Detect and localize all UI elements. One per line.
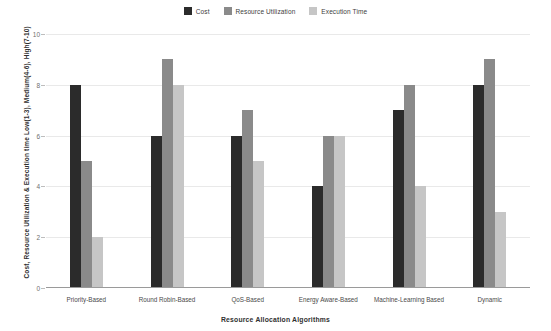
bar-resource-utilization[interactable] <box>81 161 92 288</box>
bar-group: Energy Aware-Based <box>288 34 369 288</box>
x-tick-label: QoS-Based <box>231 296 264 303</box>
x-tick-label: Energy Aware-Based <box>299 296 358 303</box>
y-tick-mark <box>41 85 45 86</box>
x-tick-label: Priority-Based <box>67 296 107 303</box>
bar-groups: Priority-BasedRound Robin-BasedQoS-Based… <box>46 34 530 288</box>
bar-execution-time[interactable] <box>253 161 264 288</box>
bar-cost[interactable] <box>70 85 81 288</box>
legend-swatch-icon <box>224 7 232 15</box>
y-tick-mark <box>41 186 45 187</box>
legend-item-cost[interactable]: Cost <box>184 7 210 15</box>
bar-execution-time[interactable] <box>173 85 184 288</box>
bar-group: Round Robin-Based <box>127 34 208 288</box>
bar-execution-time[interactable] <box>415 186 426 288</box>
bar-resource-utilization[interactable] <box>484 59 495 288</box>
bar-cost[interactable] <box>231 136 242 288</box>
legend-label: Cost <box>196 8 210 15</box>
bar-resource-utilization[interactable] <box>323 136 334 288</box>
bar-resource-utilization[interactable] <box>162 59 173 288</box>
legend-label: Execution Time <box>321 8 367 15</box>
y-tick-mark <box>41 288 45 289</box>
bar-resource-utilization[interactable] <box>404 85 415 288</box>
x-tick-label: Machine-Learning Based <box>374 296 444 303</box>
y-tick-label: 8 <box>20 81 40 88</box>
bar-group: Dynamic <box>449 34 530 288</box>
y-tick-label: 0 <box>20 285 40 292</box>
plot-area: 0246810 Priority-BasedRound Robin-BasedQ… <box>46 34 530 288</box>
bar-cost[interactable] <box>393 110 404 288</box>
legend-label: Resource Utilization <box>236 8 296 15</box>
legend-item-execution-time[interactable]: Execution Time <box>309 7 367 15</box>
bar-chart: CostResource UtilizationExecution Time C… <box>0 0 551 331</box>
y-tick-label: 4 <box>20 183 40 190</box>
x-axis-title: Resource Allocation Algorithms <box>0 316 551 323</box>
bar-group: QoS-Based <box>207 34 288 288</box>
bar-execution-time[interactable] <box>92 237 103 288</box>
legend-item-resource-utilization[interactable]: Resource Utilization <box>224 7 296 15</box>
bar-cost[interactable] <box>312 186 323 288</box>
y-tick-mark <box>41 136 45 137</box>
bar-execution-time[interactable] <box>334 136 345 288</box>
x-tick-label: Dynamic <box>477 296 502 303</box>
bar-cost[interactable] <box>151 136 162 288</box>
bar-group: Machine-Learning Based <box>369 34 450 288</box>
bar-resource-utilization[interactable] <box>242 110 253 288</box>
bar-execution-time[interactable] <box>495 212 506 288</box>
legend-swatch-icon <box>309 7 317 15</box>
legend-swatch-icon <box>184 7 192 15</box>
bar-cost[interactable] <box>473 85 484 288</box>
y-tick-label: 6 <box>20 132 40 139</box>
y-tick-label: 2 <box>20 234 40 241</box>
chart-legend: CostResource UtilizationExecution Time <box>0 7 551 15</box>
x-tick-label: Round Robin-Based <box>139 296 196 303</box>
y-tick-mark <box>41 34 45 35</box>
y-tick-label: 10 <box>20 31 40 38</box>
bar-group: Priority-Based <box>46 34 127 288</box>
y-tick-mark <box>41 237 45 238</box>
y-axis-title: Cost, Resource Utilization & Execution t… <box>23 29 30 279</box>
x-axis-line <box>46 287 530 288</box>
